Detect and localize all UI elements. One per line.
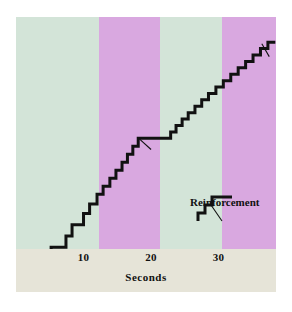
x-tick-label-30: 30 [213, 251, 225, 263]
legend-label: Reinforcement [190, 196, 259, 208]
x-tick-label-10: 10 [78, 251, 90, 263]
x-tick-label-20: 20 [145, 251, 157, 263]
cumulative-record-figure: Reinforcement 102030 Seconds [0, 0, 292, 312]
x-axis-title: Seconds [16, 271, 276, 283]
x-axis-strip: 102030 Seconds [16, 249, 276, 292]
